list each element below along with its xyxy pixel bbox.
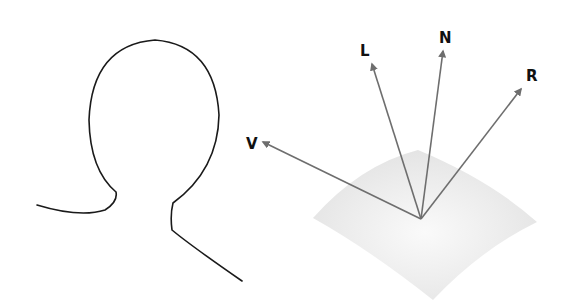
surface-patch (313, 150, 537, 300)
label-r: R (526, 67, 538, 85)
label-l: L (360, 42, 370, 60)
label-v: V (246, 135, 258, 153)
label-n: N (439, 29, 452, 47)
viewer-head-outline (37, 40, 242, 281)
phong-diagram: V L N R (0, 0, 572, 306)
